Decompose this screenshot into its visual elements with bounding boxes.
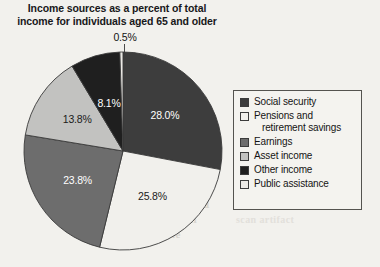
legend-label: Social security — [254, 96, 316, 108]
legend-label-line-1: Pensions and — [254, 110, 313, 121]
legend-item-pensions-and-retirement-savings[interactable]: Pensions and retirement savings — [234, 110, 361, 133]
legend-label: Earnings — [254, 136, 292, 148]
legend-label: Pensions and retirement savings — [254, 110, 341, 133]
pie-slice-value-label: 28.0% — [148, 109, 182, 121]
legend-swatch-icon — [240, 112, 249, 121]
legend-item-asset-income[interactable]: Asset income — [234, 150, 361, 162]
pie-slice-value-label: 23.8% — [61, 174, 95, 186]
legend-swatch-icon — [240, 152, 249, 161]
legend-label: Asset income — [254, 150, 312, 162]
legend-swatch-icon — [240, 180, 249, 189]
legend-swatch-icon — [240, 138, 249, 147]
pie-slices — [24, 52, 222, 250]
legend-label: Other income — [254, 164, 312, 176]
legend-swatch-icon — [240, 98, 249, 107]
legend-item-social-security[interactable]: Social security — [234, 96, 361, 108]
pie-chart-figure: Image not found or type unknown unavaila… — [0, 0, 380, 267]
legend: Social security Pensions and retirement … — [233, 90, 362, 210]
legend-label-line-2: retirement savings — [254, 122, 341, 134]
pie-slice-value-label: 25.8% — [135, 190, 169, 202]
pie-slice-value-label: 8.1% — [92, 97, 126, 109]
legend-item-public-assistance[interactable]: Public assistance — [234, 178, 361, 190]
legend-item-earnings[interactable]: Earnings — [234, 136, 361, 148]
legend-label: Public assistance — [254, 178, 329, 190]
pie-slice-value-label: 13.8% — [60, 113, 94, 125]
legend-item-other-income[interactable]: Other income — [234, 164, 361, 176]
legend-swatch-icon — [240, 166, 249, 175]
